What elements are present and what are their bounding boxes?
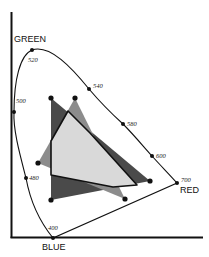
wl-label-480: 480 <box>29 174 40 181</box>
dark-vertex-blue <box>48 197 53 202</box>
wl-label-540: 540 <box>93 82 104 89</box>
wl-dot-540 <box>87 87 91 91</box>
medium-vertex-blue <box>35 160 40 165</box>
wl-label-700: 700 <box>181 176 192 183</box>
chromaticity-diagram: 520 540 580 600 700 500 480 400 GREEN RE… <box>0 0 209 257</box>
wl-label-580: 580 <box>127 120 138 127</box>
wl-dot-480 <box>24 176 28 180</box>
wl-dot-700 <box>175 181 179 185</box>
wl-label-600: 600 <box>156 152 167 159</box>
wl-dot-400 <box>51 236 55 240</box>
wl-label-500: 500 <box>16 97 27 104</box>
green-label: GREEN <box>14 34 46 44</box>
medium-vertex-red <box>122 196 127 201</box>
red-label: RED <box>180 185 200 195</box>
wl-dot-580 <box>121 122 125 126</box>
wl-label-400: 400 <box>48 224 59 231</box>
wl-dot-520 <box>30 48 34 52</box>
medium-vertex-green <box>72 95 77 100</box>
dark-vertex-red <box>147 178 152 183</box>
wl-dot-600 <box>150 154 154 158</box>
blue-label: BLUE <box>42 242 66 252</box>
wl-label-520: 520 <box>28 56 39 63</box>
wl-dot-500 <box>12 110 16 114</box>
dark-vertex-green <box>48 95 53 100</box>
